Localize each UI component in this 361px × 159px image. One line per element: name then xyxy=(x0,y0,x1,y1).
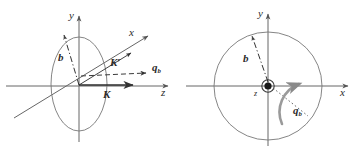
right-y-axis-label: y xyxy=(258,8,263,19)
right-momentum-transfer-label-sub: b xyxy=(299,110,302,117)
right-x-axis-label: x xyxy=(340,87,345,98)
panel-oblique-3d-view: y x z b K K′ qb xyxy=(0,0,180,159)
left-y-axis-label: y xyxy=(69,10,74,21)
left-momentum-transfer-arrow xyxy=(81,73,146,76)
right-momentum-transfer-label: qb xyxy=(293,105,302,116)
left-momentum-transfer-label-main: q xyxy=(152,61,158,73)
right-z-axis-label: z xyxy=(254,90,257,98)
left-z-axis-label: z xyxy=(161,87,165,98)
left-incoming-momentum-label: K xyxy=(103,89,110,100)
left-x-axis-label: x xyxy=(129,27,134,38)
left-x-axis-line xyxy=(14,36,148,118)
left-scattered-momentum-label: K′ xyxy=(110,57,120,68)
left-scattered-momentum-vector xyxy=(79,53,131,85)
right-impact-parameter-arrow xyxy=(252,36,268,82)
right-momentum-transfer-label-main: q xyxy=(293,104,299,116)
right-out-of-page-dot-icon xyxy=(264,82,271,89)
panel-transverse-plane-view: y x z b qb xyxy=(180,0,361,159)
left-impact-parameter-label: b xyxy=(58,52,64,63)
left-momentum-transfer-label-sub: b xyxy=(158,67,161,74)
right-impact-parameter-label: b xyxy=(243,53,249,64)
left-momentum-transfer-label: qb xyxy=(152,62,161,73)
physics-figure: y x z b K K′ qb xyxy=(0,0,361,159)
